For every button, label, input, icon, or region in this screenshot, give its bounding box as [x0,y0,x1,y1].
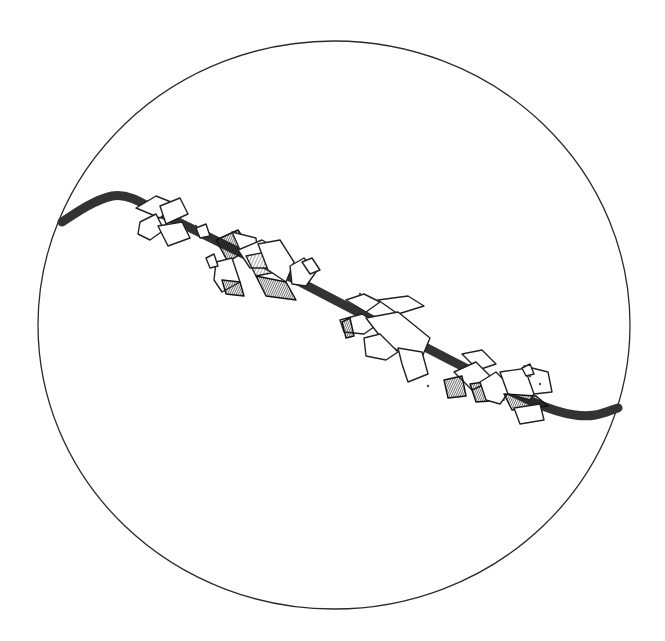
crystal-facet [444,376,466,398]
crystal-facet [222,280,244,296]
crystal-speck [359,293,361,295]
crystal-facet [514,404,544,424]
crystal-speck [539,383,541,385]
crystal-fiber-illustration [0,0,665,641]
crystal-speck [427,385,429,387]
crystal-speck [529,375,531,377]
crystal-facet [378,296,424,314]
crystal-facet [206,254,218,268]
crystal-speck [195,225,197,227]
microscope-figure [0,0,665,641]
field-of-view-circle [38,41,630,609]
crystal-cluster [136,196,552,424]
